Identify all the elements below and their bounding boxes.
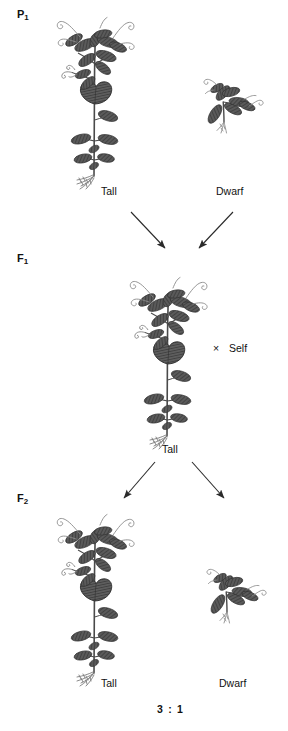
generation-label-f2-letter: F — [17, 492, 24, 504]
p1-tall-label: Tall — [101, 185, 117, 197]
generation-label-f2: F2 — [17, 492, 28, 504]
generation-label-p1-subscript: 1 — [24, 13, 28, 22]
f1-self-cross-label: × Self — [213, 342, 247, 354]
f2-tall-label: Tall — [101, 677, 117, 689]
generation-label-p1: P1 — [17, 8, 29, 20]
arrow-f1-to-f2-right — [192, 462, 224, 498]
f2-tall-plant — [57, 515, 134, 687]
arrow-p1-left-to-f1 — [131, 212, 165, 248]
p1-dwarf-plant — [204, 79, 263, 133]
f1-tall-plant — [130, 278, 207, 450]
generation-label-f1-subscript: 1 — [24, 257, 28, 266]
arrow-f1-to-f2-left — [124, 462, 155, 498]
f1-tall-label: Tall — [162, 443, 178, 455]
multiply-icon: × — [213, 342, 219, 354]
f2-ratio-label: 3 : 1 — [157, 703, 184, 715]
p1-dwarf-label: Dwarf — [216, 185, 243, 197]
generation-label-f1: F1 — [17, 252, 28, 264]
arrow-p1-right-to-f1 — [199, 212, 233, 248]
generation-label-f1-letter: F — [17, 252, 24, 264]
f2-dwarf-plant — [207, 569, 266, 623]
genetics-cross-diagram — [0, 0, 288, 731]
f2-dwarf-label: Dwarf — [219, 677, 246, 689]
p1-tall-plant — [57, 18, 134, 190]
generation-label-f2-subscript: 2 — [24, 497, 28, 506]
f1-self-cross-text: Self — [229, 342, 247, 354]
